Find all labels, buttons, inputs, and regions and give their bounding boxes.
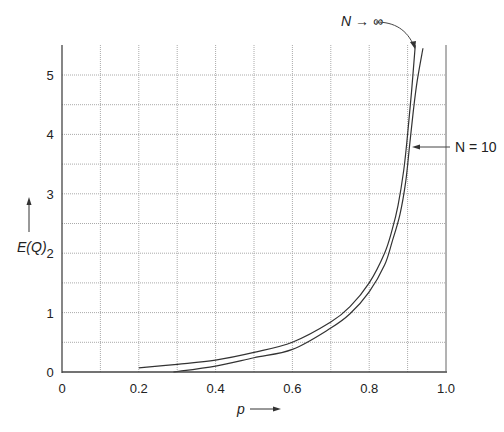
y-tick-label: 0 xyxy=(46,365,53,380)
curves xyxy=(139,45,423,372)
tick-labels: 00.20.40.60.81.0012345 xyxy=(46,68,455,396)
annotation-n10-text: N = 10 xyxy=(455,139,497,155)
y-tick-label: 4 xyxy=(46,127,53,142)
curve-n-10 xyxy=(173,48,423,372)
annotation-n-10: N = 10 xyxy=(412,139,497,155)
y-tick-label: 5 xyxy=(46,68,53,83)
arrow-left-icon xyxy=(412,145,420,150)
x-tick-label: 0 xyxy=(58,381,65,396)
arrow-up-icon xyxy=(27,197,32,205)
x-tick-label: 0.4 xyxy=(207,381,225,396)
annotation-n-infinity: N → ∞ xyxy=(341,13,416,49)
arrow-icon xyxy=(410,41,416,49)
x-tick-label: 0.6 xyxy=(283,381,301,396)
x-tick-label: 1.0 xyxy=(437,381,455,396)
xlabel-text: p xyxy=(236,401,245,417)
y-axis-label: E(Q) xyxy=(17,197,47,255)
y-tick-label: 2 xyxy=(46,246,53,261)
y-tick-label: 1 xyxy=(46,306,53,321)
curve-n-infinity xyxy=(139,45,415,368)
grid xyxy=(62,45,446,372)
ylabel-text: E(Q) xyxy=(17,239,47,255)
x-tick-label: 0.8 xyxy=(360,381,378,396)
x-axis-label: p xyxy=(236,401,281,417)
y-tick-label: 3 xyxy=(46,187,53,202)
chart: 00.20.40.60.81.0012345 E(Q) p N → ∞ N = … xyxy=(0,0,504,432)
x-tick-label: 0.2 xyxy=(130,381,148,396)
annotation-n-inf-text: N → ∞ xyxy=(341,13,383,29)
arrow-right-icon xyxy=(273,407,281,412)
